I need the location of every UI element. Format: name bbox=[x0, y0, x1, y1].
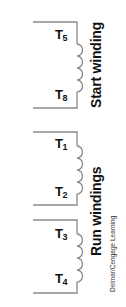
start-winding-label: Start winding bbox=[88, 22, 104, 108]
terminal-label-t1: T1 bbox=[55, 137, 67, 152]
winding-lines bbox=[0, 0, 126, 307]
run-windings-label: Run windings bbox=[88, 167, 104, 256]
credit-text: Delmar/Cengage Learning bbox=[109, 216, 116, 292]
terminal-label-t3: T3 bbox=[55, 227, 67, 242]
terminal-label-t5: T5 bbox=[55, 28, 67, 43]
terminal-label-t2: T2 bbox=[55, 185, 67, 200]
terminal-label-t8: T8 bbox=[55, 88, 67, 103]
winding-diagram: T5 T8 T1 T2 T3 T4 Start winding Run wind… bbox=[0, 0, 126, 307]
terminal-label-t4: T4 bbox=[55, 272, 67, 287]
